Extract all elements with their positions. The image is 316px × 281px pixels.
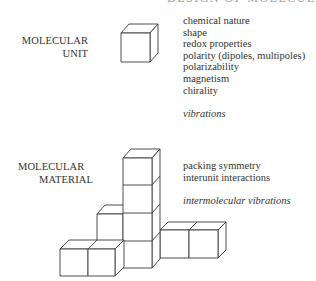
right-row-cubes xyxy=(160,222,226,258)
single-cube-icon xyxy=(121,24,158,62)
cube-figure xyxy=(0,0,316,281)
bottom-left-row-cubes xyxy=(60,240,124,276)
tower-cubes xyxy=(123,149,160,268)
cube-assembly-icon xyxy=(60,149,226,276)
